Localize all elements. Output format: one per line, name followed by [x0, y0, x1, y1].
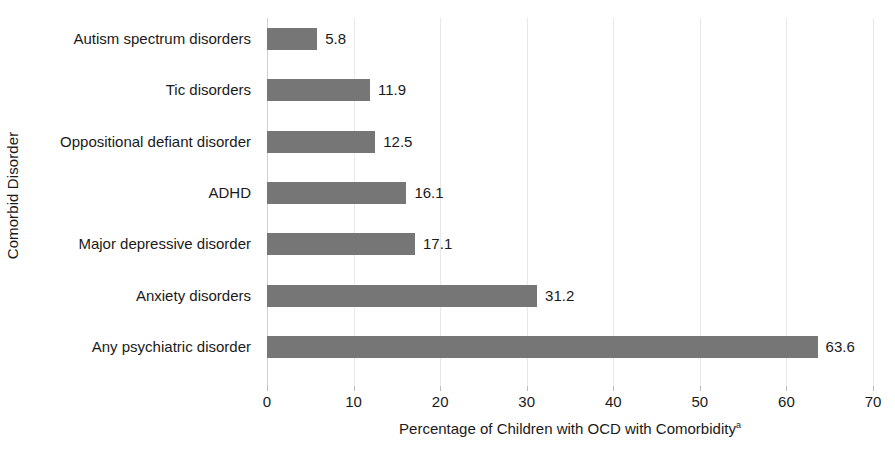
- plot-area: 5.811.912.516.117.131.263.6: [267, 18, 873, 386]
- x-axis-title-footnote-marker: a: [736, 420, 741, 430]
- x-tick-label: 40: [605, 393, 622, 410]
- bar: [267, 79, 370, 101]
- gridline-30: [527, 18, 528, 386]
- bar-value-label: 5.8: [325, 28, 346, 50]
- bar-value-label: 63.6: [826, 336, 855, 358]
- x-tick-label: 50: [692, 393, 709, 410]
- category-label: Major depressive disorder: [78, 233, 251, 255]
- x-tick-mark: [873, 386, 874, 391]
- bar-value-label: 12.5: [383, 131, 412, 153]
- x-tick-mark: [527, 386, 528, 391]
- category-label: Tic disorders: [166, 79, 251, 101]
- x-tick-label: 60: [778, 393, 795, 410]
- x-axis: 010203040506070: [267, 386, 873, 416]
- gridline-40: [613, 18, 614, 386]
- x-tick-label: 20: [432, 393, 449, 410]
- bar-value-label: 17.1: [423, 233, 452, 255]
- gridline-70: [873, 18, 874, 386]
- y-axis-title: Comorbid Disorder: [0, 0, 26, 390]
- x-tick-mark: [354, 386, 355, 391]
- x-tick-label: 0: [263, 393, 271, 410]
- bar: [267, 182, 406, 204]
- x-tick-mark: [786, 386, 787, 391]
- category-axis: Autism spectrum disordersTic disordersOp…: [26, 18, 259, 386]
- bar-value-label: 11.9: [378, 79, 406, 101]
- gridline-60: [786, 18, 787, 386]
- x-axis-title: Percentage of Children with OCD with Com…: [267, 420, 873, 437]
- bar-value-label: 16.1: [414, 182, 443, 204]
- category-label: Any psychiatric disorder: [92, 336, 251, 358]
- bar: [267, 336, 818, 358]
- category-label: ADHD: [208, 182, 251, 204]
- bar: [267, 233, 415, 255]
- bar: [267, 131, 375, 153]
- gridline-50: [700, 18, 701, 386]
- x-tick-mark: [613, 386, 614, 391]
- y-axis-title-text: Comorbid Disorder: [5, 131, 22, 259]
- bar: [267, 285, 537, 307]
- x-tick-mark: [267, 386, 268, 391]
- x-tick-label: 70: [865, 393, 882, 410]
- bar-value-label: 31.2: [545, 285, 574, 307]
- category-label: Oppositional defiant disorder: [60, 131, 251, 153]
- x-tick-label: 30: [518, 393, 535, 410]
- x-tick-label: 10: [345, 393, 362, 410]
- category-label: Autism spectrum disorders: [73, 28, 251, 50]
- bar-chart: Comorbid Disorder Autism spectrum disord…: [0, 0, 895, 461]
- x-axis-title-text: Percentage of Children with OCD with Com…: [399, 420, 736, 437]
- x-tick-mark: [700, 386, 701, 391]
- category-label: Anxiety disorders: [136, 285, 251, 307]
- bar: [267, 28, 317, 50]
- x-tick-mark: [440, 386, 441, 391]
